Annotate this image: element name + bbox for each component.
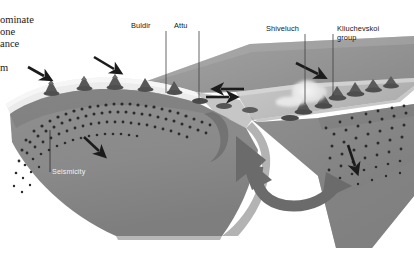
volcano-cone [242,107,258,113]
volcano-cone [281,115,299,121]
label-kliuchevskoi-group: group [337,34,356,42]
diagram-canvas: ominate one ance m Buldir Attu Shiveluch… [0,0,414,256]
caption-line-1: ominate [0,14,34,25]
convergence-arrow-west [94,57,114,69]
label-attu: Attu [174,22,188,30]
caption-line-4: m [0,62,8,73]
convergence-arrow-far-west [28,67,44,76]
caption-line-2: one [0,26,15,37]
volcano-cone [192,98,208,104]
label-seismicity: Seismicity [52,167,85,176]
caption-line-3: ance [0,38,19,49]
label-buldir: Buldir [131,22,151,30]
label-shiveluch: Shiveluch [266,25,299,33]
volcano-cone [216,103,232,109]
